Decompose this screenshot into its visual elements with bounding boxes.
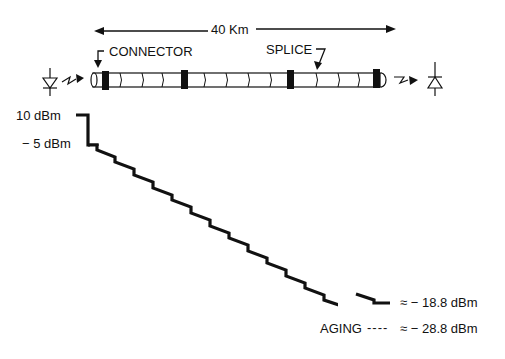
received-power-label: ≈ − 18.8 dBm <box>400 295 478 310</box>
splice-label: SPLICE <box>266 42 312 57</box>
aging-dashes: ---- <box>367 320 388 335</box>
distance-label: 40 Km <box>211 22 249 37</box>
aging-label: AGING <box>320 321 362 336</box>
after-connector-power-label: − 5 dBm <box>22 136 71 151</box>
launch-power-label: 10 dBm <box>16 108 61 123</box>
connector-label: CONNECTOR <box>109 44 193 59</box>
aging-power-label: ≈ − 28.8 dBm <box>400 321 478 336</box>
